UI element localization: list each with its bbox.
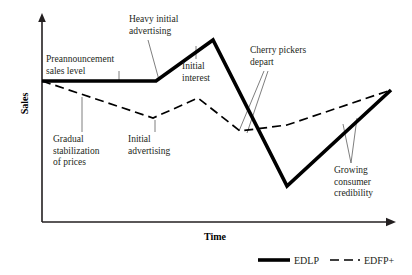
- leader-cherry-pickers-b: [247, 71, 268, 133]
- annotation-initial-interest: Initial interest: [182, 61, 210, 84]
- annotation-heavy-initial-advertising: Heavy initial advertising: [129, 14, 178, 37]
- series-line-edfp: [42, 81, 391, 131]
- leader-heavy-initial-advertising: [148, 40, 159, 80]
- chart-figure: Sales Time Preannouncement sales level H…: [0, 0, 412, 275]
- annotation-cherry-pickers-depart: Cherry pickers depart: [250, 45, 306, 68]
- legend-label-edfp: EDFP+: [364, 255, 394, 266]
- x-axis-arrowhead: [386, 218, 396, 226]
- annotation-preannouncement: Preannouncement sales level: [46, 54, 114, 77]
- annotation-gradual-stabilization: Gradual stabilization of prices: [53, 134, 99, 169]
- y-axis-title: Sales: [19, 84, 30, 124]
- annotation-growing-consumer-credibility: Growing consumer credibility: [334, 165, 373, 200]
- leader-lines-group: [82, 40, 357, 163]
- legend-label-edlp: EDLP: [294, 255, 319, 266]
- x-axis-title: Time: [185, 231, 245, 242]
- annotation-initial-advertising: Initial advertising: [128, 134, 170, 157]
- y-axis-arrowhead: [38, 13, 46, 22]
